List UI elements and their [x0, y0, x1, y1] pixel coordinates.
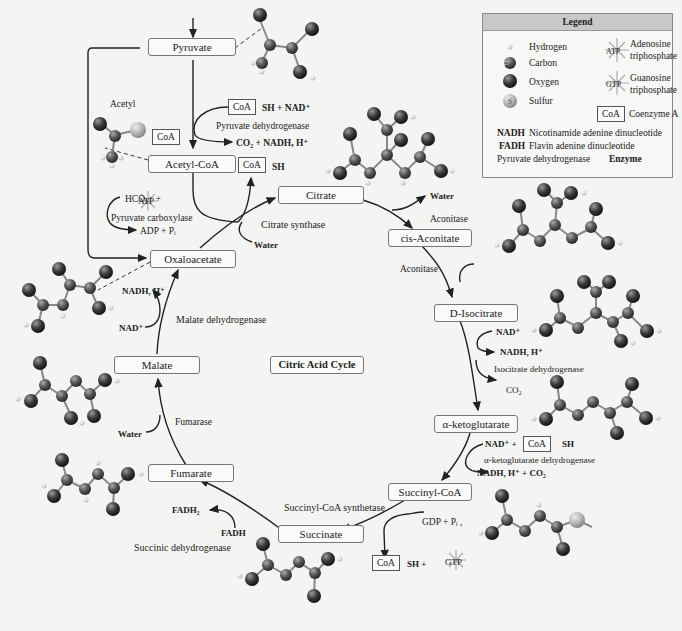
- oxygen-icon: [503, 74, 517, 88]
- enzyme-akg-dehydrogenase: α-ketoglutarate dehydrogenase: [484, 454, 595, 466]
- compound-d-isocitrate: D-Isocitrate: [434, 304, 518, 322]
- compound-cis-aconitate: cis-Aconitate: [388, 229, 472, 247]
- nadh-isocitrate: NADH, H⁺: [500, 346, 543, 358]
- compound-oxaloacetate: Oxaloacetate: [150, 250, 236, 268]
- atp-symbol: ATP: [606, 46, 620, 57]
- carbon-symbol: C: [503, 58, 508, 69]
- coa-box-acetyl-coa: CoA: [238, 157, 266, 173]
- legend-abbr-fadh: FADH: [499, 141, 525, 152]
- sh-nad-label: SH + NAD⁺: [262, 102, 310, 114]
- legend-enzyme-example: Pyruvate dehydrogenase: [497, 154, 590, 165]
- legend-label-coa: Coenzyme A: [629, 109, 678, 120]
- legend-title: Legend: [483, 14, 672, 31]
- nad-isocitrate: NAD⁺: [496, 326, 520, 338]
- nadh-malate: NADH, H⁺: [122, 285, 165, 297]
- acetyl-label: Acetyl: [110, 98, 135, 110]
- enzyme-fumarase: Fumarase: [175, 416, 212, 428]
- gtp-label-succinyl: GTP: [445, 556, 462, 568]
- diagram-title: Citric Acid Cycle: [270, 356, 364, 374]
- gtp-symbol: GTP: [606, 79, 621, 90]
- legend-label-gtp-1: Guanosine: [630, 73, 671, 84]
- coa-box-akg: CoA: [523, 436, 551, 452]
- enzyme-malate-dehydrogenase: Malate dehydrogenase: [176, 314, 266, 326]
- legend-panel: Legend Hydrogen Carbon Oxygen Sulfur C S…: [482, 13, 673, 178]
- legend-text-nadh: Nicotinamide adenine dinucleotide: [529, 128, 662, 139]
- compound-fumarate: Fumarate: [148, 464, 234, 482]
- sh-akg: SH: [562, 438, 574, 450]
- enzyme-aconitase-1: Aconitase: [430, 213, 468, 225]
- compound-acetyl-coa: Acetyl-CoA: [148, 155, 236, 173]
- coa-box-acetyl: CoA: [152, 129, 180, 145]
- co2-nadh-label: CO₂ + NADH, H⁺: [236, 137, 308, 149]
- legend-text-fadh: Flavin adenine dinucleotide: [529, 141, 635, 152]
- nadh-co2-akg: NADH, H⁺ + CO₂: [477, 467, 546, 479]
- co2-isocitrate: CO₂: [506, 384, 522, 396]
- sh-label-acetyl-coa: SH: [272, 161, 285, 173]
- water-citrate-synthase: Water: [254, 239, 278, 251]
- legend-label-carbon: Carbon: [529, 58, 557, 69]
- enzyme-pyruvate-carboxylase: Pyruvate carboxylase: [111, 212, 193, 224]
- compound-succinate: Succinate: [278, 525, 364, 543]
- legend-coa-box: CoA: [597, 106, 625, 122]
- legend-abbr-nadh: NADH: [497, 128, 525, 139]
- enzyme-succinic-dehydrogenase: Succinic dehydrogenase: [134, 542, 231, 554]
- enzyme-succinyl-coa-synthetase: Succinyl-CoA synthetase: [284, 502, 385, 514]
- legend-label-gtp-2: triphosphate: [630, 85, 677, 96]
- fadh-label: FADH: [221, 527, 246, 539]
- adp-pi-label: ADP + Pᵢ: [140, 225, 176, 237]
- sh-gtp-label: SH +: [407, 558, 426, 570]
- gdp-pi-label: GDP + Pᵢ ,: [422, 516, 462, 528]
- atp-label-carboxylase: ATP: [138, 195, 154, 207]
- compound-malate: Malate: [114, 356, 200, 374]
- nad-malate: NAD⁺: [119, 322, 143, 334]
- enzyme-aconitase-2: Aconitase: [400, 263, 438, 275]
- compound-citrate: Citrate: [278, 186, 364, 204]
- legend-label-atp-2: triphosphate: [630, 51, 677, 62]
- sulfur-symbol: S: [503, 96, 517, 107]
- coa-box-succinyl: CoA: [372, 555, 400, 571]
- coa-box-pdh: CoA: [228, 99, 256, 115]
- compound-succinyl-coa: Succinyl-CoA: [388, 483, 472, 501]
- enzyme-citrate-synthase: Citrate synthase: [261, 219, 325, 231]
- water-citrate-out: Water: [430, 190, 454, 202]
- water-fumarase: Water: [118, 428, 142, 440]
- nad-akg: NAD⁺ +: [485, 438, 517, 450]
- hydrogen-icon: [508, 45, 513, 50]
- enzyme-pyruvate-dehydrogenase: Pyruvate dehydrogenase: [216, 120, 309, 132]
- legend-enzyme-label: Enzyme: [609, 154, 642, 165]
- legend-label-hydrogen: Hydrogen: [529, 42, 567, 53]
- compound-pyruvate: Pyruvate: [148, 38, 236, 56]
- fadh2-label: FADH₂: [172, 504, 200, 516]
- legend-label-sulfur: Sulfur: [529, 96, 553, 107]
- compound-alpha-ketoglutarate: α-ketoglutarate: [434, 415, 518, 433]
- legend-label-atp-1: Adenosine: [630, 39, 671, 50]
- legend-label-oxygen: Oxygen: [529, 77, 559, 88]
- enzyme-isocitrate-dehydrogenase: Isocitrate dehydrogenase: [494, 363, 584, 375]
